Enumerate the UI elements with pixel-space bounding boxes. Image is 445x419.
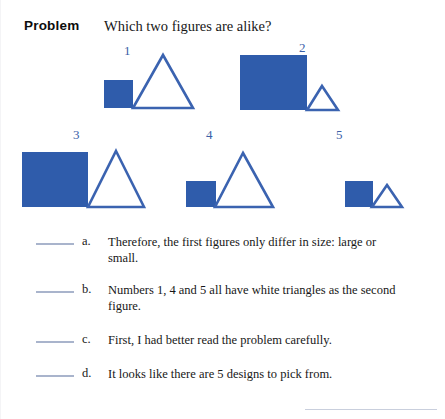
figure-3-group <box>22 151 144 207</box>
worksheet-page: Problem Which two figures are alike? 1 2… <box>0 0 445 419</box>
figure-5-group <box>345 181 402 207</box>
figure-number-1: 1 <box>124 44 131 57</box>
figure-number-4: 4 <box>206 128 213 141</box>
footer-rule <box>305 409 437 410</box>
answer-letter-b: b. <box>82 280 108 297</box>
answer-options-list: a. Therefore, the first figures only dif… <box>0 232 445 396</box>
answer-letter-d: d. <box>82 364 108 381</box>
answer-blank-a[interactable] <box>36 243 74 245</box>
figure-3-square <box>22 152 88 207</box>
answer-text-c: First, I had better read the problem car… <box>108 330 408 348</box>
figure-1-group <box>104 55 193 108</box>
answer-row-c[interactable]: c. First, I had better read the problem … <box>0 330 445 348</box>
figure-1-square <box>104 80 133 108</box>
figure-5-triangle <box>372 185 402 207</box>
problem-question-text: Which two figures are alike? <box>104 18 271 35</box>
answer-letter-c: c. <box>82 330 108 347</box>
figure-3-triangle <box>88 151 144 207</box>
figure-number-3: 3 <box>73 128 80 141</box>
answer-blank-c[interactable] <box>36 341 74 343</box>
figure-4-triangle <box>215 153 273 207</box>
answer-letter-a: a. <box>82 232 108 249</box>
figure-2-square <box>240 55 307 110</box>
figure-4-group <box>186 153 273 207</box>
answer-text-a: Therefore, the first figures only differ… <box>108 232 408 266</box>
figure-5-square <box>345 181 373 207</box>
page-title: Problem <box>24 18 79 33</box>
answer-row-d[interactable]: d. It looks like there are 5 designs to … <box>0 364 445 382</box>
answer-text-d: It looks like there are 5 designs to pic… <box>108 364 408 382</box>
figure-2-triangle <box>307 86 338 110</box>
figure-4-square <box>186 181 216 207</box>
answer-row-a[interactable]: a. Therefore, the first figures only dif… <box>0 232 445 266</box>
figure-1-triangle <box>133 55 193 108</box>
figure-2-group <box>240 55 338 110</box>
figure-number-5: 5 <box>336 128 343 141</box>
figure-number-2: 2 <box>299 41 306 54</box>
answer-text-b: Numbers 1, 4 and 5 all have white triang… <box>108 280 408 314</box>
answer-row-b[interactable]: b. Numbers 1, 4 and 5 all have white tri… <box>0 280 445 314</box>
answer-blank-b[interactable] <box>36 291 74 293</box>
answer-blank-d[interactable] <box>36 375 74 377</box>
